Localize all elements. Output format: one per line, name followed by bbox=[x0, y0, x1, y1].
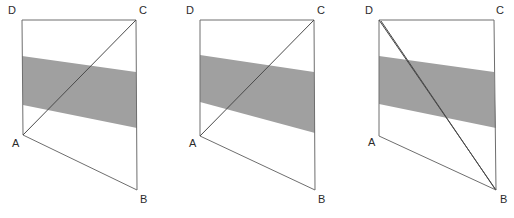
panel-3: ABCD bbox=[357, 0, 514, 218]
vertex-label-d: D bbox=[8, 4, 16, 16]
panel-1: ABCD bbox=[0, 0, 172, 218]
panel-2-canvas: ABCD bbox=[178, 0, 350, 218]
panel-1-canvas: ABCD bbox=[0, 0, 172, 218]
shaded-band bbox=[22, 56, 137, 128]
vertex-label-a: A bbox=[189, 137, 197, 149]
figure-root: ABCDABCDABCD bbox=[0, 0, 514, 218]
vertex-label-c: C bbox=[496, 4, 504, 16]
vertex-label-b: B bbox=[140, 193, 147, 205]
vertex-label-d: D bbox=[365, 4, 373, 16]
vertex-label-a: A bbox=[12, 137, 20, 149]
vertex-label-b: B bbox=[500, 193, 507, 205]
vertex-label-d: D bbox=[186, 4, 194, 16]
panel-3-canvas: ABCD bbox=[357, 0, 514, 218]
shaded-band bbox=[200, 55, 315, 133]
panel-2: ABCD bbox=[178, 0, 350, 218]
vertex-label-c: C bbox=[317, 4, 325, 16]
vertex-label-c: C bbox=[139, 4, 147, 16]
vertex-label-a: A bbox=[368, 136, 376, 148]
vertex-label-b: B bbox=[318, 193, 325, 205]
shaded-band bbox=[379, 56, 496, 128]
